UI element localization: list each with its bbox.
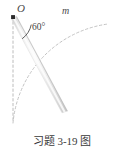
- pivot-label: O: [17, 3, 25, 14]
- angle-label: 60°: [32, 23, 45, 33]
- physics-diagram: [0, 0, 124, 130]
- figure-caption: 习题 3-19 图: [0, 132, 124, 148]
- figure-container: O m 60° 习题 3-19 图: [0, 0, 124, 154]
- pivot-point: [11, 15, 15, 19]
- mass-label: m: [62, 6, 69, 16]
